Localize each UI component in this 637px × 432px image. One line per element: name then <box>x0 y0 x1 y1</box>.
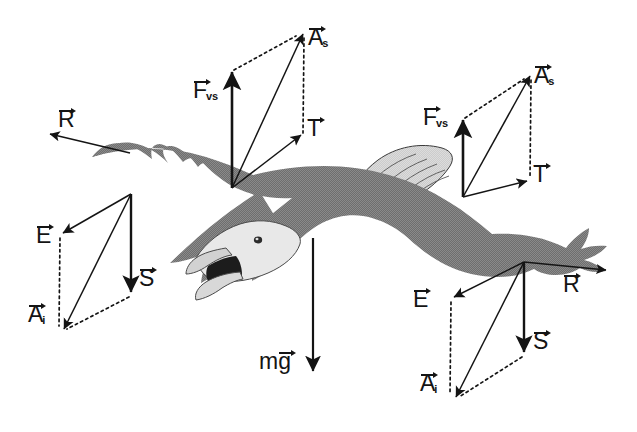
vector-right-T <box>463 181 527 197</box>
label-right-As: As <box>534 64 554 87</box>
label-right-T: T <box>533 163 547 186</box>
vector-right-As <box>463 76 530 197</box>
label-right-R: R <box>563 273 580 296</box>
construction-left-lower-b <box>67 297 129 329</box>
construction-left-upper-b <box>303 38 304 133</box>
vector-group-left-tip <box>50 134 130 153</box>
construction-right-lower-a <box>450 302 451 394</box>
label-right-Fvs: Fvs <box>423 106 448 129</box>
vector-group-right-upper <box>463 76 531 197</box>
label-left-Ai: Ai <box>28 303 45 326</box>
construction-right-upper-a <box>465 79 524 118</box>
construction-left-upper-a <box>234 36 296 70</box>
label-left-E: E <box>36 224 51 247</box>
vector-left-As <box>232 34 303 188</box>
construction-left-lower-a <box>59 238 60 326</box>
vector-left-T <box>232 135 301 188</box>
label-right-S: S <box>533 330 548 353</box>
label-left-Fvs: Fvs <box>193 79 218 102</box>
vector-right-E <box>454 262 524 297</box>
label-left-R: R <box>58 108 75 131</box>
vector-group-right-lower <box>450 262 524 397</box>
label-left-S: S <box>139 267 154 290</box>
label-left-As: As <box>308 26 328 49</box>
vector-group-left-lower <box>59 194 131 329</box>
vector-left-R <box>50 134 130 153</box>
figure-canvas: R Fvs As T E S Ai mg Fvs As T R <box>0 0 637 432</box>
label-weight-mg: mg <box>259 350 291 373</box>
construction-right-lower-b <box>459 357 522 397</box>
label-left-T: T <box>307 117 321 140</box>
construction-right-upper-b <box>530 80 531 178</box>
vector-group-right-tip <box>524 262 606 270</box>
label-right-Ai: Ai <box>420 372 437 395</box>
label-right-E: E <box>413 288 428 311</box>
vector-right-R <box>524 262 606 270</box>
vector-left-Ai <box>64 194 131 329</box>
vector-group-left-upper <box>232 34 304 188</box>
